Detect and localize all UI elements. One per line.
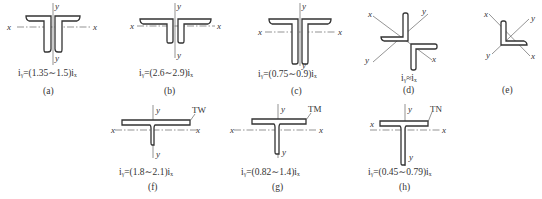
x-label-left: x <box>6 22 11 32</box>
caption-c: (c) <box>291 86 302 97</box>
y-label-top: y <box>407 104 412 114</box>
tag-tm: TM <box>308 104 322 114</box>
caption-e: (e) <box>502 85 513 96</box>
formula-b: iᵧ=(2.6∼2.9)iₓ <box>139 68 193 79</box>
tag-tn: TN <box>430 104 442 114</box>
x-label-right: x <box>195 125 200 135</box>
tag-leader <box>306 113 311 120</box>
formula-g: iᵧ=(0.82∼1.4)iₓ <box>241 167 300 178</box>
panel-f: TW x x y y iᵧ=(1.8∼2.1)iₓ (f) <box>110 105 206 193</box>
x-label-left: x <box>110 125 115 135</box>
x-label-left: x <box>369 119 374 129</box>
angle-right <box>302 19 331 64</box>
angle-right <box>55 16 80 52</box>
angle-right <box>178 19 211 43</box>
tag-tw: TW <box>192 105 206 115</box>
y-label-top: y <box>530 13 535 23</box>
x-label-left: x <box>257 27 262 37</box>
caption-h: (h) <box>399 182 410 193</box>
y-label-bottom: y <box>408 152 413 162</box>
angle-upper-left <box>381 13 408 41</box>
x-label-right: x <box>216 21 221 31</box>
tee-section-tw <box>122 120 190 145</box>
caption-b: (b) <box>164 86 175 97</box>
x-label-left: x <box>367 9 372 19</box>
section-diagram: x x y y iᵧ=(1.35∼1.5)iₓ (a) x x y y iᵧ=(… <box>0 0 542 199</box>
x-label-left: x <box>129 21 134 31</box>
x-label-right: x <box>318 125 323 135</box>
tag-leader <box>190 114 195 121</box>
tee-section-tm <box>252 119 306 154</box>
panel-g: TM x x y y iᵧ=(0.82∼1.4)iₓ (g) <box>229 104 323 193</box>
formula-a: iᵧ=(1.35∼1.5)iₓ <box>18 68 77 79</box>
panel-e: x x y y (e) <box>483 9 535 96</box>
caption-a: (a) <box>43 86 54 97</box>
y-label-top: y <box>155 105 160 115</box>
y-label-bottom: y <box>54 53 59 63</box>
angle-left <box>140 19 173 43</box>
x-label-right: x <box>431 54 436 64</box>
caption-d: (d) <box>403 85 414 96</box>
y-label-bottom: y <box>281 147 286 157</box>
y-label-top: y <box>280 104 285 114</box>
angle-left <box>269 19 298 64</box>
formula-d: iᵧ≈iₓ <box>401 73 417 84</box>
y-label-bottom: y <box>155 149 160 159</box>
x-label-right: x <box>441 125 446 135</box>
y-axis <box>492 19 529 54</box>
tee-section-tn <box>380 121 428 165</box>
y-label-top: y <box>54 1 59 11</box>
panel-c: x x y y iᵧ=(0.75∼0.9)iₓ (c) <box>257 1 342 97</box>
y-label-bottom: y <box>485 50 490 60</box>
formula-f: iᵧ=(1.8∼2.1)iₓ <box>119 167 173 178</box>
y-label-bottom: y <box>176 50 181 60</box>
x-label-right: x <box>92 22 97 32</box>
y-label-bottom: y <box>364 55 369 65</box>
x-label-left: x <box>229 125 234 135</box>
y-label-top: y <box>421 6 426 16</box>
caption-f: (f) <box>148 182 158 193</box>
formula-h: iᵧ=(0.45∼0.79)iₓ <box>368 167 432 178</box>
formula-c: iᵧ=(0.75∼0.9)iₓ <box>258 69 317 80</box>
x-label-right: x <box>337 27 342 37</box>
caption-g: (g) <box>272 182 283 193</box>
panel-h: TN x x y y iᵧ=(0.45∼0.79)iₓ (h) <box>368 104 446 193</box>
angle-left <box>26 16 51 52</box>
x-label-top: x <box>483 9 488 19</box>
panel-a: x x y y iᵧ=(1.35∼1.5)iₓ (a) <box>6 1 97 97</box>
x-label-bottom: x <box>530 51 535 61</box>
panel-d: x x y y iᵧ≈iₓ (d) <box>364 6 437 96</box>
y-label-top: y <box>176 1 181 11</box>
y-label-top: y <box>301 1 306 11</box>
panel-b: x x y y iᵧ=(2.6∼2.9)iₓ (b) <box>129 1 221 97</box>
x-axis <box>489 14 530 56</box>
